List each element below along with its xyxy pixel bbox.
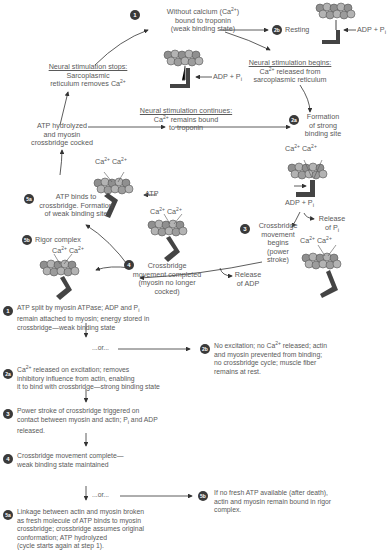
flow-step2a-badge: 2a (3, 369, 13, 379)
flow-step2b-badge: 2b (200, 344, 210, 354)
step5b-calcium-labels: Ca2+ Ca2+ (52, 247, 84, 256)
flow-step4-badge: 4 (3, 454, 13, 464)
step1-badge: 1 (130, 10, 140, 20)
flow-step2a-text: Ca2+ released on excitation; removes inh… (17, 366, 160, 392)
flow-step2b-text: No excitation; no Ca2+ released; actin a… (214, 342, 327, 376)
step2a-label: Formation of strong binding site (298, 113, 348, 139)
step1-label: Without calcium (Ca2+) bound to troponin… (143, 8, 263, 34)
step3-badge: 3 (240, 224, 250, 234)
flow-step1-badge: 1 (3, 306, 13, 316)
flow-step1-text: ATP split by myosin ATPase; ADP and Pi r… (17, 304, 149, 332)
step5a-atp-label: ATP (145, 190, 158, 199)
step5b-label: Rigor complex (35, 236, 81, 245)
neural-begins-label: Neural stimulation begins: Ca2+ released… (240, 59, 340, 85)
flow-step5a-badge: 5a (3, 510, 13, 520)
atp-hydrolyzed-label: ATP hydrolyzed and myosin crossbridge co… (22, 122, 102, 148)
flow-or-2: ...or... (92, 491, 109, 500)
step5a-calcium-labels: Ca2+ Ca2+ (95, 158, 127, 167)
flow-step5b-badge: 5b (198, 491, 208, 501)
step3-calcium-labels: Ca2+ Ca2+ (300, 237, 332, 246)
step2b-adp-label: ADP + Pi (357, 26, 386, 37)
flow-step3-text: Power stroke of crossbridge triggered on… (17, 407, 158, 435)
step2a-adp-label: ADP + Pi (285, 199, 314, 210)
step5b-badge: 5b (22, 235, 32, 245)
flow-step5b-text: If no fresh ATP available (after death),… (214, 489, 331, 515)
myosin-head-step1 (170, 68, 190, 88)
release-pi-label: Release of Pi (312, 215, 352, 235)
flow-step5a-text: Linkage between actin and myosin broken … (17, 508, 144, 551)
step4-calcium-labels: Ca2+ Ca2+ (150, 208, 182, 217)
actin-filament-step1 (164, 50, 203, 66)
step2b-label: Resting (285, 26, 309, 35)
step3-label: Crossbridge movement begins (power strok… (250, 222, 306, 265)
flow-or-1: ...or... (92, 344, 109, 353)
step4-label: Crossbridge movement completed (myosin n… (132, 262, 202, 296)
step2a-calcium-labels: Ca2+ Ca2+ (285, 145, 317, 154)
step5a-badge: 5a (24, 194, 34, 204)
release-adp-label: Release of ADP (228, 271, 268, 288)
step2b-badge: 2b (272, 25, 282, 35)
flow-step4-text: Crossbridge movement complete— weak bind… (17, 452, 124, 469)
step5a-label: ATP binds to crossbridge. Formation of w… (34, 193, 118, 219)
flow-step3-badge: 3 (3, 409, 13, 419)
step1-adp-label: ADP + Pi (213, 73, 242, 84)
neural-stops-label: Neural stimulation stops: Sarcoplasmic r… (38, 63, 138, 89)
neural-continues-label: Neural stimulation continues: Ca2+ remai… (130, 107, 242, 133)
